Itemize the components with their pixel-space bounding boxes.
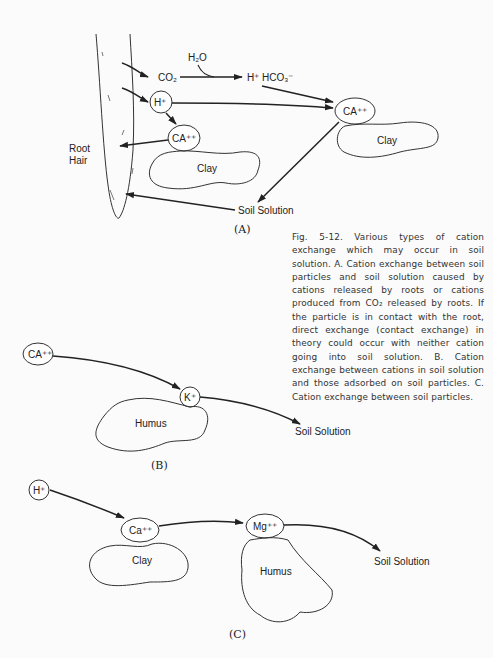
- ca-b-label: CA⁺⁺: [28, 349, 52, 360]
- clay-right-label: Clay: [377, 135, 397, 146]
- h-ion-label: H⁺: [154, 97, 166, 108]
- soil-solution-a-label: Soil Solution: [238, 205, 294, 216]
- root-label: Root: [69, 143, 90, 154]
- humus-c-label: Humus: [260, 566, 292, 577]
- panel-b-label: (B): [151, 459, 168, 472]
- root-hair-shape: [96, 34, 134, 218]
- h2o-label: H₂O: [188, 52, 207, 63]
- panel-c-label: (C): [229, 628, 246, 641]
- panel-a-label: (A): [234, 223, 251, 236]
- humus-b-label: Humus: [135, 418, 167, 429]
- ca-left-label: CA⁺⁺: [172, 133, 196, 144]
- panel-c: H⁺ Ca⁺⁺ Clay Mg⁺⁺ Humus Soil Solution (C…: [29, 480, 430, 641]
- co2-label: CO₂: [158, 72, 177, 83]
- panel-a: Root Hair CO₂ H₂O H⁺ HCO₃⁻ H⁺ CA⁺⁺ Clay …: [69, 34, 438, 236]
- clay-left-label: Clay: [197, 163, 217, 174]
- mg-label: Mg⁺⁺: [253, 521, 277, 532]
- k-ion-label: K⁺: [184, 392, 196, 403]
- soil-solution-b-label: Soil Solution: [295, 426, 351, 437]
- humus-blob-c: [241, 538, 332, 622]
- figure-caption: Fig. 5-12. Various types of cation excha…: [292, 231, 484, 404]
- ca-right-label: CA⁺⁺: [343, 106, 367, 117]
- h-c-label: H⁺: [33, 485, 45, 496]
- clay-c-label: Clay: [132, 555, 152, 566]
- h-hco3-label: H⁺ HCO₃⁻: [247, 72, 293, 83]
- hair-label: Hair: [69, 155, 88, 166]
- ca-c-label: Ca⁺⁺: [129, 525, 152, 536]
- soil-solution-c-label: Soil Solution: [374, 556, 430, 567]
